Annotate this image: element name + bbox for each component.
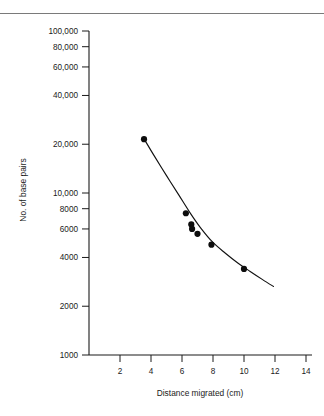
y-axis-title: No. of base pairs [18,158,28,221]
data-point [208,242,214,248]
y-tick-label-2000: 2000 [60,302,79,311]
y-tick-label-6000: 6000 [60,225,79,234]
y-tick-label-10000: 10,000 [53,189,78,198]
x-tick-label-2: 2 [118,367,123,376]
x-axis-tick-labels: 2468101214 [118,367,311,376]
semilog-scatter-plot: 1000200040006000800010,00020,00040,00060… [0,0,324,416]
x-tick-label-4: 4 [149,367,154,376]
y-tick-label-60000: 60,000 [53,63,78,72]
y-tick-label-20000: 20,000 [53,140,78,149]
data-point [241,266,247,272]
y-tick-label-4000: 4000 [60,253,79,262]
y-tick-label-100000: 100,000 [48,27,78,36]
x-tick-label-8: 8 [211,367,216,376]
data-point-group [141,136,247,272]
page-top-rule [0,13,324,14]
y-tick-label-40000: 40,000 [53,91,78,100]
data-point [194,231,200,237]
x-tick-label-6: 6 [180,367,185,376]
x-tick-label-10: 10 [239,367,249,376]
y-tick-label-80000: 80,000 [53,43,78,52]
data-point [141,136,147,142]
y-tick-label-8000: 8000 [60,205,79,214]
data-point [189,226,195,232]
x-tick-label-14: 14 [301,367,311,376]
x-axis-ticks [120,355,306,362]
data-point [183,210,189,216]
x-axis-title: Distance migrated (cm) [157,388,244,398]
y-axis-tick-labels: 1000200040006000800010,00020,00040,00060… [48,27,78,360]
y-tick-label-1000: 1000 [60,351,79,360]
x-tick-label-12: 12 [270,367,280,376]
chart-figure: 1000200040006000800010,00020,00040,00060… [0,0,324,416]
calibration-curve [143,138,273,287]
y-axis-ticks [82,31,89,355]
